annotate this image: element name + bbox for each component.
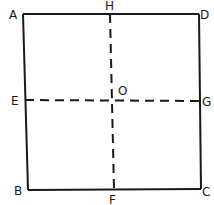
label-h: H bbox=[105, 0, 114, 13]
midline-eg bbox=[25, 100, 200, 101]
square-diagram: A H D E G O B F C bbox=[0, 0, 214, 205]
edge-dc bbox=[199, 14, 201, 189]
dashed-midlines bbox=[25, 14, 200, 190]
midline-hf bbox=[110, 14, 114, 190]
label-c: C bbox=[202, 185, 210, 199]
square-outline bbox=[23, 14, 201, 190]
label-d: D bbox=[200, 8, 209, 22]
label-g: G bbox=[202, 95, 211, 109]
label-a: A bbox=[9, 8, 18, 22]
label-f: F bbox=[109, 193, 116, 205]
label-e: E bbox=[11, 94, 19, 108]
edge-ba bbox=[23, 14, 28, 190]
edge-cb bbox=[28, 189, 201, 190]
label-b: B bbox=[14, 184, 22, 198]
label-o: O bbox=[118, 84, 127, 98]
